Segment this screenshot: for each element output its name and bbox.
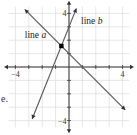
x-axis-arrow-icon [130,65,134,69]
axes [4,1,134,134]
y-axis-arrow-icon [67,129,71,133]
x-tick-label: −4 [11,70,20,79]
y-tick-label: −4 [58,117,67,126]
intersection-point [59,44,63,48]
x-tick-label: 4 [121,70,125,79]
line-b [32,8,76,119]
line-label: line a [25,30,47,40]
y-tick-label: 4 [63,9,67,18]
plotted-lines [25,8,126,119]
line-a [25,9,126,110]
x-axis-arrow-icon [4,65,8,69]
line-label: line b [81,16,103,26]
line-labels: line aline b [25,16,103,39]
y-axis-arrow-icon [67,1,71,5]
coordinate-plane: −444−4 line aline b [0,0,137,135]
option-letter: e. [1,93,8,104]
